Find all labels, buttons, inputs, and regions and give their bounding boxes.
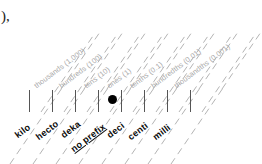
column-divider-tick	[98, 90, 99, 112]
column-divider-tick	[190, 90, 191, 112]
column-divider-tick	[167, 90, 168, 112]
column-divider-tick	[29, 90, 30, 112]
stray-document-text: ),	[1, 8, 10, 25]
place-value-chart: ), thousands (1,000) hundreds (100) tens…	[0, 0, 262, 164]
column-divider-tick	[75, 90, 76, 112]
column-divider-tick	[52, 90, 53, 112]
column-divider-tick	[144, 90, 145, 112]
decimal-point-marker	[108, 95, 117, 104]
column-divider-tick	[121, 90, 122, 112]
